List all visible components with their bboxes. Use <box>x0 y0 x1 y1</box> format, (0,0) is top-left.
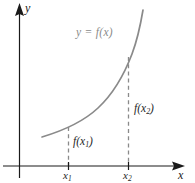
fx2-suffix: ) <box>150 102 154 114</box>
function-value-label-x2: f(x2) <box>134 103 154 116</box>
x1-subscript: 1 <box>68 174 72 183</box>
function-value-label-x1: f(x1) <box>73 136 93 149</box>
function-graph-figure: y x y = f(x) f(x1) f(x2) x1 x2 <box>0 0 195 183</box>
fx1-prefix: f(x <box>73 135 85 147</box>
x-tick-label-x1: x1 <box>63 170 72 183</box>
x-axis-label: x <box>178 169 183 181</box>
curve-equation-label: y = f(x) <box>76 27 113 39</box>
x-tick-label-x2: x2 <box>123 170 132 183</box>
fx2-prefix: f(x <box>134 102 146 114</box>
fx1-suffix: ) <box>89 135 93 147</box>
y-axis-label: y <box>25 2 30 14</box>
x2-subscript: 2 <box>128 174 132 183</box>
